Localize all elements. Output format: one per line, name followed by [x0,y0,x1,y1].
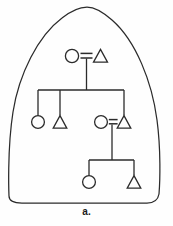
symbol-female-g3-a [83,176,96,189]
symbol-male-g1 [94,49,108,62]
symbol-female-g1 [65,49,78,62]
symbol-male-g3-b [127,176,141,189]
symbol-male-g2-b [53,116,67,129]
union-marker-g1 [81,53,93,58]
figure-container: a. [0,0,173,226]
dome-outline-shape [9,7,160,203]
symbol-female-g2-spouse [95,116,108,129]
symbol-female-g2-a [32,116,45,129]
union-marker-g2 [109,120,118,124]
figure-caption-label: a. [0,206,173,217]
kinship-diagram-svg [0,0,173,226]
symbol-male-g2-c [117,116,131,129]
